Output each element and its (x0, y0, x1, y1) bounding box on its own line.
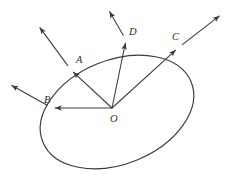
origin-label: O (110, 113, 118, 124)
vector-OA (40, 28, 112, 108)
point-label-d: D (128, 26, 137, 37)
vector-OC-segment (112, 50, 176, 108)
vector-OA-segment (73, 72, 112, 108)
diagram-canvas: A B C D O (0, 0, 234, 189)
vector-diagram-figure: A B C D O (0, 0, 234, 189)
vector-OB (12, 86, 112, 108)
ellipse-shape (23, 34, 210, 189)
point-label-a: A (75, 54, 83, 65)
point-label-b: B (44, 94, 51, 105)
vector-OB-extension (12, 86, 47, 106)
vector-OC-extension (182, 16, 219, 45)
vector-OD-extension (110, 12, 124, 35)
ellipse-outline (23, 34, 210, 189)
point-label-c: C (172, 31, 180, 42)
vector-OA-extension (40, 28, 68, 66)
vector-OD (110, 12, 126, 108)
